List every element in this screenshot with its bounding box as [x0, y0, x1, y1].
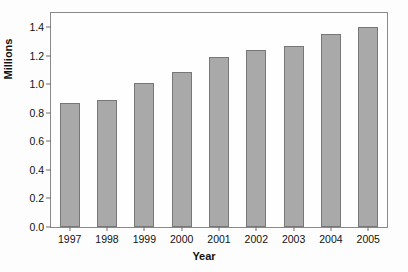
y-tick-label: 1.4: [29, 21, 51, 33]
x-tick-label: 1998: [95, 233, 118, 245]
x-tick-label: 2003: [282, 233, 305, 245]
x-tick-mark: [144, 227, 145, 231]
x-tick-mark: [181, 227, 182, 231]
bar: [172, 72, 192, 228]
bar-series: 199719981999200020012002200320042005: [51, 13, 387, 227]
x-tick-mark: [69, 227, 70, 231]
x-tick-mark: [106, 227, 107, 231]
y-tick-label: 1.2: [29, 50, 51, 62]
bar-slot: 2003: [275, 13, 312, 227]
y-tick-label: 0.0: [29, 221, 51, 233]
plot-area: 0.00.20.40.60.81.01.21.4 199719981999200…: [50, 12, 388, 228]
x-tick-mark: [256, 227, 257, 231]
x-tick-label: 2005: [357, 233, 380, 245]
bar: [134, 83, 154, 227]
x-tick-label: 2000: [170, 233, 193, 245]
bar-slot: 2001: [200, 13, 237, 227]
x-tick-label: 2001: [207, 233, 230, 245]
bar-slot: 1998: [88, 13, 125, 227]
y-tick-label: 0.2: [29, 192, 51, 204]
x-tick-mark: [293, 227, 294, 231]
x-tick-mark: [330, 227, 331, 231]
bar: [246, 50, 266, 227]
bar-slot: 1997: [51, 13, 88, 227]
x-tick-label: 1997: [58, 233, 81, 245]
bar: [209, 57, 229, 227]
y-tick-label: 0.8: [29, 107, 51, 119]
bar: [321, 34, 341, 227]
bar-chart: Millions 0.00.20.40.60.81.01.21.4 199719…: [0, 0, 408, 272]
bar-slot: 2002: [238, 13, 275, 227]
x-tick-label: 1999: [133, 233, 156, 245]
x-tick-mark: [368, 227, 369, 231]
x-tick-mark: [218, 227, 219, 231]
y-tick-label: 0.6: [29, 135, 51, 147]
y-axis-title: Millions: [2, 14, 18, 104]
x-tick-label: 2004: [319, 233, 342, 245]
bar: [60, 103, 80, 227]
bar: [284, 46, 304, 227]
bar-slot: 2005: [350, 13, 387, 227]
bar-slot: 1999: [126, 13, 163, 227]
bar: [358, 27, 378, 227]
bar-slot: 2004: [312, 13, 349, 227]
bar-slot: 2000: [163, 13, 200, 227]
y-tick-label: 0.4: [29, 164, 51, 176]
x-axis-title: Year: [0, 250, 408, 262]
x-tick-label: 2002: [245, 233, 268, 245]
bar: [97, 100, 117, 227]
y-tick-label: 1.0: [29, 78, 51, 90]
